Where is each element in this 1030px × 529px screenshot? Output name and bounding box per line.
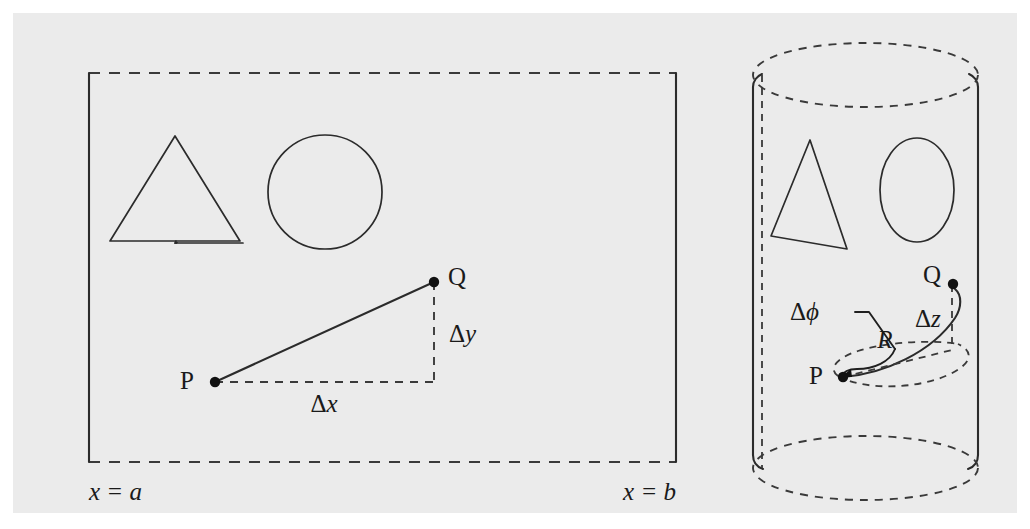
left-panel-group: P Q Δx Δy x = a x = b <box>88 73 676 505</box>
x-glyph: x <box>325 390 337 417</box>
triangle-shape <box>110 136 240 241</box>
radius-label: R <box>876 326 892 353</box>
cyl-point-p-label: P <box>809 362 823 389</box>
delta-glyph-phi: Δ <box>790 298 806 325</box>
phi-glyph: ϕ <box>806 298 819 325</box>
cylinder-bottom-rim-ellipse <box>753 436 978 500</box>
delta-phi-label: Δϕ <box>790 298 819 325</box>
point-p-label: P <box>180 367 194 394</box>
pq-curve-on-cylinder <box>843 289 960 377</box>
delta-glyph-x: Δ <box>310 390 326 417</box>
point-q-marker <box>429 277 439 287</box>
figure-canvas: P Q Δx Δy x = a x = b <box>0 0 1030 529</box>
point-p-marker <box>210 377 220 387</box>
right-panel-group: P Q Δϕ Δz R <box>753 43 978 500</box>
delta-glyph-z: Δ <box>915 305 931 332</box>
delta-glyph-y: Δ <box>449 320 465 347</box>
delta-x-label: Δx <box>310 390 337 417</box>
circle-shape <box>268 135 382 249</box>
cylinder-left-wall-topcap <box>753 74 762 87</box>
delta-y-label: Δy <box>449 320 477 347</box>
cylinder-top-rim-ellipse <box>753 43 978 107</box>
ellipse-shape-distorted <box>880 138 954 242</box>
pq-segment <box>215 282 434 382</box>
z-glyph: z <box>930 305 941 332</box>
y-glyph: y <box>462 320 477 347</box>
triangle-shape-distorted <box>771 140 847 249</box>
radius-circle-dashed-back <box>834 342 958 376</box>
point-q-label: Q <box>448 263 466 290</box>
delta-z-label: Δz <box>915 305 941 332</box>
boundary-label-right: x = b <box>622 478 676 505</box>
radius-dashed-leg <box>843 350 952 377</box>
cyl-point-q-marker <box>948 279 958 289</box>
figure-page: P Q Δx Δy x = a x = b <box>0 0 1030 529</box>
boundary-label-left: x = a <box>88 478 142 505</box>
cyl-point-p-marker <box>838 372 848 382</box>
cyl-point-q-label: Q <box>923 261 941 288</box>
